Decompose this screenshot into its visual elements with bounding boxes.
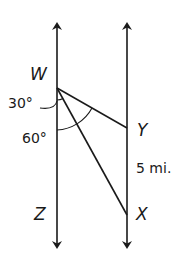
point-label-z: Z [33, 204, 46, 224]
segment-wx [57, 88, 127, 215]
angle-arc-30 [40, 101, 57, 108]
angle-label-30: 30° [8, 95, 33, 111]
angle-label-60: 60° [22, 130, 47, 146]
angle-arc-30-inner [57, 99, 63, 101]
point-label-x: X [135, 204, 148, 224]
distance-label: 5 mi. [136, 160, 171, 176]
geometry-diagram: W 30° 60° Y 5 mi. Z X [0, 0, 188, 256]
point-label-y: Y [137, 120, 149, 140]
point-label-w: W [30, 64, 48, 84]
